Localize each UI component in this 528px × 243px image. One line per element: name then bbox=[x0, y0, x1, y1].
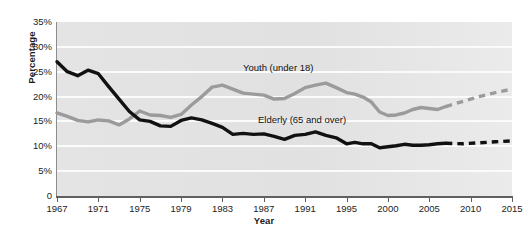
x-tick-label: 1991 bbox=[282, 204, 328, 214]
y-tick-label: 25% bbox=[0, 67, 52, 77]
x-tick-label: 1995 bbox=[324, 204, 370, 214]
series-label-elderly: Elderly (65 and over) bbox=[258, 115, 346, 125]
figure-footer-spacer bbox=[0, 239, 528, 243]
series-line-elderly-projected bbox=[446, 141, 512, 144]
x-tick-mark bbox=[471, 196, 472, 202]
x-axis-title: Year bbox=[0, 215, 528, 226]
x-tick-mark bbox=[429, 196, 430, 202]
x-tick-mark bbox=[222, 196, 223, 202]
x-tick-mark bbox=[98, 196, 99, 202]
series-lines bbox=[57, 22, 512, 196]
x-tick-mark bbox=[181, 196, 182, 202]
line-chart-figure: Percentage 35%30%25%20%15%10%5%0 1967197… bbox=[0, 0, 528, 243]
y-tick-label: 20% bbox=[0, 92, 52, 102]
x-tick-label: 2000 bbox=[365, 204, 411, 214]
x-tick-mark bbox=[388, 196, 389, 202]
y-tick-label: 35% bbox=[0, 17, 52, 27]
y-tick-label: 30% bbox=[0, 42, 52, 52]
x-tick-mark bbox=[57, 196, 58, 202]
y-tick-label: 15% bbox=[0, 116, 52, 126]
x-tick-mark bbox=[347, 196, 348, 202]
x-tick-label: 1975 bbox=[117, 204, 163, 214]
series-label-youth: Youth (under 18) bbox=[243, 63, 313, 73]
y-tick-label: 5% bbox=[0, 166, 52, 176]
series-line-youth bbox=[57, 83, 446, 125]
x-tick-mark bbox=[305, 196, 306, 202]
y-tick-label: 10% bbox=[0, 141, 52, 151]
x-tick-mark bbox=[140, 196, 141, 202]
x-axis-line bbox=[56, 196, 513, 198]
series-line-elderly bbox=[57, 62, 446, 148]
x-tick-mark bbox=[264, 196, 265, 202]
x-tick-label: 1987 bbox=[241, 204, 287, 214]
series-line-youth-projected bbox=[446, 89, 512, 106]
x-tick-label: 1983 bbox=[199, 204, 245, 214]
x-tick-label: 2015 bbox=[489, 204, 528, 214]
plot-area bbox=[57, 22, 512, 196]
y-tick-label: 0 bbox=[0, 191, 52, 201]
x-tick-label: 1967 bbox=[34, 204, 80, 214]
x-tick-label: 2005 bbox=[406, 204, 452, 214]
x-tick-label: 1979 bbox=[158, 204, 204, 214]
x-tick-label: 1971 bbox=[75, 204, 121, 214]
x-tick-mark bbox=[512, 196, 513, 202]
x-tick-label: 2010 bbox=[448, 204, 494, 214]
